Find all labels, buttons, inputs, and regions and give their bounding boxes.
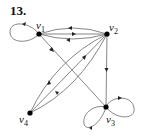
vertex-label-v4: v4 — [19, 114, 28, 128]
arrow-icon — [118, 96, 122, 100]
edge-v1-loop — [10, 24, 39, 41]
arrow-icon — [68, 26, 72, 30]
arrow-icon — [22, 22, 26, 26]
vertex-v3 — [103, 104, 108, 109]
vertex-label-v2: v2 — [109, 22, 118, 36]
vertex-label-v3: v3 — [106, 114, 115, 128]
arrow-icon — [72, 32, 76, 36]
arrow-icon — [47, 80, 51, 85]
vertex-v4 — [27, 110, 32, 115]
vertex-label-sub: 2 — [114, 27, 118, 36]
vertex-label-sub: 1 — [41, 25, 45, 34]
vertex-label-v1: v1 — [36, 20, 45, 34]
arrow-icon — [55, 91, 59, 95]
arrow-icon — [89, 126, 92, 130]
edge-v3-loop-left — [84, 106, 106, 127]
vertex-label-sub: 4 — [24, 119, 28, 128]
edge-v2-v4-middle — [30, 34, 107, 113]
vertex-label-sub: 3 — [111, 119, 115, 128]
arrow-icon — [105, 68, 109, 72]
